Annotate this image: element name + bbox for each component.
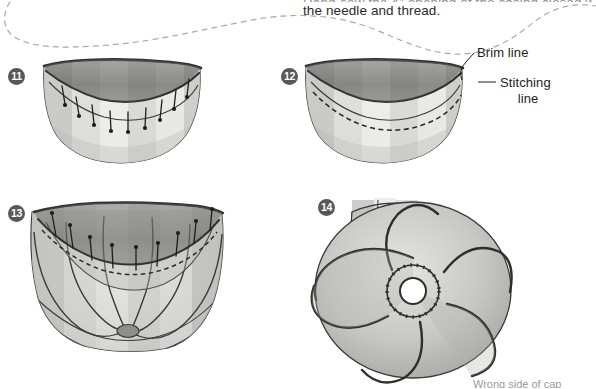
bottom-caption: Wrong side of cap <box>473 378 561 388</box>
intro-paragraph: Hand-sew the 4" opening of the casing cl… <box>303 0 593 19</box>
brim-line-label: Brim line <box>477 45 528 61</box>
step-number-14: 14 <box>318 199 335 216</box>
step-12-illustration <box>306 53 496 175</box>
intro-line-2: the needle and thread. <box>303 2 593 19</box>
step-14-illustration <box>312 198 512 383</box>
step-11-illustration <box>44 55 206 175</box>
stitching-line-label: Stitching line <box>500 75 570 106</box>
step-number-12: 12 <box>281 68 298 85</box>
step-number-13: 13 <box>8 205 25 222</box>
stitching-line-label-part2: line <box>500 91 570 107</box>
step-13-illustration <box>31 200 226 360</box>
instruction-page: Hand-sew the 4" opening of the casing cl… <box>0 0 596 389</box>
step-number-11: 11 <box>8 68 25 85</box>
stitching-line-label-part1: Stitching <box>500 75 551 90</box>
